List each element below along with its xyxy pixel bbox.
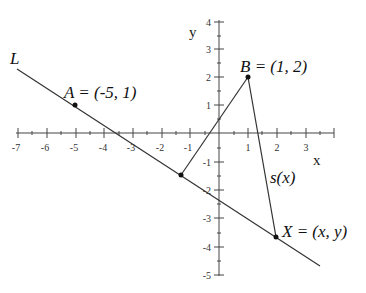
point-B-label: B = (1, 2) — [240, 57, 308, 76]
segment-s-x — [248, 77, 276, 237]
y-tick-label: 1 — [206, 100, 211, 111]
x-tick-label: 3 — [304, 142, 309, 153]
y-tick-label: 2 — [206, 72, 211, 83]
y-tick-labels: 4 3 2 1 -1 -2 -3 -4 -5 — [203, 17, 211, 281]
y-tick-label: -4 — [203, 242, 211, 253]
y-tick-label: -3 — [203, 213, 211, 224]
y-axis-label: y — [189, 24, 197, 40]
y-tick-label: 4 — [206, 17, 211, 28]
y-tick-label: -1 — [203, 157, 211, 168]
x-tick-label: -1 — [184, 142, 192, 153]
x-tick-label: -7 — [12, 142, 20, 153]
x-tick-labels: -7 -6 -5 -4 -3 -2 -1 1 2 3 — [12, 142, 309, 153]
x-tick-label: 1 — [246, 142, 251, 153]
x-tick-label: -5 — [70, 142, 78, 153]
coordinate-diagram: -7 -6 -5 -4 -3 -2 -1 1 2 3 4 3 2 1 -1 -2… — [0, 0, 366, 293]
point-P — [179, 173, 184, 178]
x-tick-label: -2 — [156, 142, 164, 153]
segment-P-B — [181, 77, 248, 175]
segment-s-x-label: s(x) — [270, 168, 296, 187]
point-A — [73, 103, 78, 108]
x-tick-label: -4 — [99, 142, 107, 153]
x-axis-label: x — [313, 152, 321, 168]
x-tick-label: -6 — [41, 142, 49, 153]
x-tick-label: 2 — [275, 142, 280, 153]
point-A-label: A = (-5, 1) — [63, 83, 137, 102]
point-X-label: X = (x, y) — [281, 222, 348, 241]
point-X — [274, 235, 279, 240]
y-tick-label: -5 — [203, 270, 211, 281]
line-L-label: L — [9, 49, 19, 68]
y-tick-label: 3 — [206, 44, 211, 55]
